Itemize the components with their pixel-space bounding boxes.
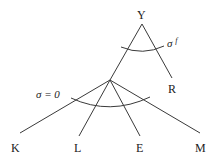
edge-node-to-m (110, 80, 200, 133)
node-label-r: R (168, 82, 176, 96)
sigma-superscript: f (175, 36, 179, 45)
node-label-y: Y (137, 8, 146, 22)
sigma-symbol: σ (167, 37, 173, 49)
node-label-l: L (74, 141, 81, 155)
edge-node-to-k (20, 80, 110, 133)
sigma-zero-label: σ = 0 (36, 88, 60, 100)
lower-angle-arc (71, 97, 150, 107)
sigma-f-label: σ f (167, 36, 179, 49)
node-label-e: E (136, 141, 143, 155)
edge-node-to-l (79, 80, 110, 136)
edge-y-to-node (110, 24, 142, 80)
tree-diagram: Y R K L E M σ f σ = 0 (0, 0, 217, 158)
node-label-m: M (195, 141, 206, 155)
node-label-k: K (11, 141, 20, 155)
